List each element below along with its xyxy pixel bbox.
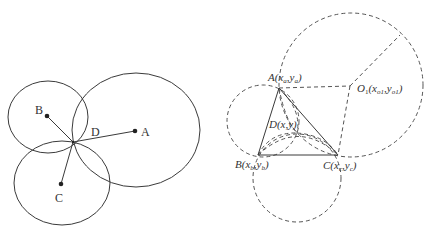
label-d-coords: D(x,y)	[268, 118, 297, 131]
segment-a-o1	[279, 86, 350, 88]
segment-d-b	[47, 116, 73, 142]
point-d	[72, 141, 74, 143]
point-a	[133, 129, 138, 134]
point-b	[45, 114, 50, 119]
label-b-coords: B(xb,yb)	[235, 158, 269, 172]
segment-o1-c	[338, 86, 350, 155]
label-o1-coords: O1(xo1,yo1)	[357, 82, 403, 96]
segment-o1-radius	[350, 35, 400, 86]
left-figure: A B C D	[8, 73, 200, 225]
arc-b-c-inner	[258, 137, 338, 156]
point-c	[59, 182, 64, 187]
geometry-figure: A B C D A(xa,ya) O1(xo1,yo1) D(	[0, 0, 431, 238]
label-d: D	[91, 125, 100, 139]
label-c-coords: C(xc,yc)	[323, 159, 357, 173]
label-c: C	[55, 191, 63, 205]
label-a-coords: A(xa,ya)	[267, 71, 302, 85]
label-b: B	[35, 103, 43, 117]
right-figure: A(xa,ya) O1(xo1,yo1) D(x,y) B(xb,yb) C(x…	[227, 13, 423, 222]
label-a: A	[141, 125, 150, 139]
